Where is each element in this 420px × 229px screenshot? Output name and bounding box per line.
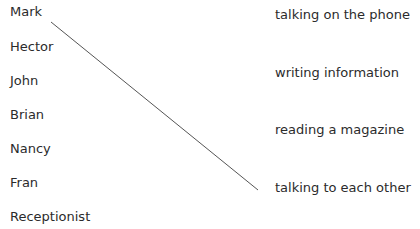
connection-line-mark-talking bbox=[51, 22, 258, 190]
connection-lines bbox=[0, 0, 420, 229]
